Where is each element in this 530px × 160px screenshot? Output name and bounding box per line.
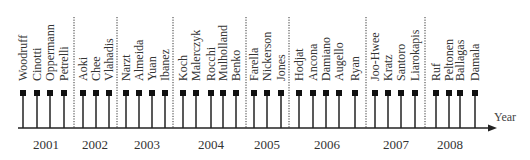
author-stem-ibanez bbox=[162, 90, 168, 128]
square-marker-icon bbox=[180, 90, 186, 96]
author-stem-ruf bbox=[433, 90, 439, 128]
square-marker-icon bbox=[80, 90, 86, 96]
author-stem-mulholland bbox=[220, 90, 226, 128]
year-label-2007: 2007 bbox=[383, 137, 410, 152]
author-stem-kratz bbox=[385, 90, 391, 128]
square-marker-icon bbox=[336, 90, 342, 96]
author-name-label: Farella bbox=[247, 47, 261, 81]
author-stem-petrelli bbox=[61, 90, 67, 128]
author-stem-koch bbox=[180, 90, 186, 128]
author-name-label: Aoki bbox=[76, 56, 90, 81]
author-name-label: Ancona bbox=[306, 43, 320, 81]
square-marker-icon bbox=[208, 90, 214, 96]
author-name-label: Koch bbox=[176, 55, 190, 81]
square-marker-icon bbox=[472, 90, 478, 96]
square-marker-icon bbox=[446, 90, 452, 96]
square-marker-icon bbox=[47, 90, 53, 96]
author-stem-benko bbox=[233, 90, 239, 128]
author-stem-almeida bbox=[136, 90, 142, 128]
year-label-2006: 2006 bbox=[314, 137, 341, 152]
author-stem-santoro bbox=[398, 90, 404, 128]
author-name-label: Oppermann bbox=[43, 24, 57, 81]
author-stems bbox=[20, 90, 478, 128]
author-name-label: Almeida bbox=[132, 39, 146, 81]
square-marker-icon bbox=[310, 90, 316, 96]
author-stem-malerczyk bbox=[193, 90, 199, 128]
author-stem-narzt bbox=[123, 90, 129, 128]
author-stem-nickerson bbox=[264, 90, 270, 128]
author-stem-augello bbox=[336, 90, 342, 128]
axis-title: Year bbox=[494, 110, 516, 124]
author-name-label: Cinotti bbox=[30, 47, 44, 81]
author-stem-damiano bbox=[323, 90, 329, 128]
author-name-label: Kratz bbox=[381, 54, 395, 81]
author-stem-oppermann bbox=[47, 90, 53, 128]
author-stem-vlahadis bbox=[106, 90, 112, 128]
year-label-2008: 2008 bbox=[437, 137, 463, 152]
year-label-2002: 2002 bbox=[82, 137, 108, 152]
author-name-label: Malerczyk bbox=[189, 30, 203, 81]
square-marker-icon bbox=[136, 90, 142, 96]
square-marker-icon bbox=[433, 90, 439, 96]
author-name-label: Damiano bbox=[319, 37, 333, 81]
author-stem-peltonen bbox=[446, 90, 452, 128]
arrow-head-icon bbox=[488, 125, 497, 132]
square-marker-icon bbox=[193, 90, 199, 96]
year-label-2005: 2005 bbox=[254, 137, 280, 152]
square-marker-icon bbox=[34, 90, 40, 96]
square-marker-icon bbox=[372, 90, 378, 96]
author-name-label: Ibanez bbox=[158, 49, 172, 81]
author-stem-aoki bbox=[80, 90, 86, 128]
author-stem-ryan bbox=[352, 90, 358, 128]
square-marker-icon bbox=[398, 90, 404, 96]
author-name-label: Hodjat bbox=[292, 48, 306, 81]
author-name-label: Benko bbox=[229, 50, 243, 81]
author-name-label: Petrelli bbox=[57, 46, 71, 81]
year-label-2001: 2001 bbox=[33, 137, 59, 152]
author-name-label: Ballagas bbox=[453, 39, 467, 81]
square-marker-icon bbox=[20, 90, 26, 96]
square-marker-icon bbox=[162, 90, 168, 96]
author-stem-chee bbox=[93, 90, 99, 128]
square-marker-icon bbox=[220, 90, 226, 96]
square-marker-icon bbox=[264, 90, 270, 96]
square-marker-icon bbox=[233, 90, 239, 96]
square-marker-icon bbox=[149, 90, 155, 96]
square-marker-icon bbox=[251, 90, 257, 96]
author-stem-liarokapis bbox=[412, 90, 418, 128]
author-name-label: Augello bbox=[332, 42, 346, 81]
author-name-label: Vlahadis bbox=[102, 38, 116, 81]
square-marker-icon bbox=[323, 90, 329, 96]
square-marker-icon bbox=[93, 90, 99, 96]
square-marker-icon bbox=[412, 90, 418, 96]
author-stem-woodruff bbox=[20, 90, 26, 128]
author-stem-jones bbox=[278, 90, 284, 128]
author-name-label: Joo-Hwee bbox=[368, 32, 382, 81]
author-name-label: Narzt bbox=[119, 54, 133, 81]
author-name-label: Yuan bbox=[145, 56, 159, 81]
author-stem-yuan bbox=[149, 90, 155, 128]
author-name-label: Mulholland bbox=[216, 25, 230, 81]
author-name-label: Santoro bbox=[394, 44, 408, 81]
author-name-label: Nickerson bbox=[260, 32, 274, 81]
author-name-label: Chee bbox=[89, 56, 103, 81]
square-marker-icon bbox=[352, 90, 358, 96]
author-timeline-diagram: WoodruffCinottiOppermannPetrelliAokiChee… bbox=[0, 0, 530, 160]
square-marker-icon bbox=[457, 90, 463, 96]
square-marker-icon bbox=[106, 90, 112, 96]
year-label-2004: 2004 bbox=[198, 137, 225, 152]
author-stem-damala bbox=[472, 90, 478, 128]
author-names: WoodruffCinottiOppermannPetrelliAokiChee… bbox=[16, 24, 482, 81]
square-marker-icon bbox=[296, 90, 302, 96]
square-marker-icon bbox=[61, 90, 67, 96]
author-stem-ballagas bbox=[457, 90, 463, 128]
author-stem-hodjat bbox=[296, 90, 302, 128]
author-stem-rocchi bbox=[208, 90, 214, 128]
square-marker-icon bbox=[123, 90, 129, 96]
author-stem-cinotti bbox=[34, 90, 40, 128]
square-marker-icon bbox=[385, 90, 391, 96]
author-stem-joo-hwee bbox=[372, 90, 378, 128]
timeline-canvas: WoodruffCinottiOppermannPetrelliAokiChee… bbox=[0, 0, 530, 160]
author-name-label: Woodruff bbox=[16, 35, 30, 81]
author-stem-ancona bbox=[310, 90, 316, 128]
